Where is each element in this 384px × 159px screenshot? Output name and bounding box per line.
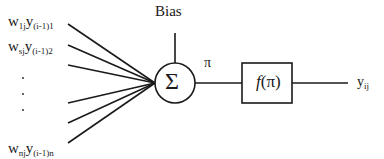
output-label: yij bbox=[357, 74, 369, 91]
weight-symbol: w bbox=[8, 13, 19, 29]
weight-symbol: w bbox=[8, 140, 19, 156]
input-lines bbox=[68, 24, 155, 143]
weight-subscript: nj bbox=[19, 148, 26, 158]
input-line-2 bbox=[68, 45, 155, 83]
ellipsis-dot-1 bbox=[22, 77, 24, 79]
input-line-4 bbox=[68, 83, 155, 103]
input-label-1: w1jy(i-1)1 bbox=[8, 13, 54, 34]
input-line-5 bbox=[68, 83, 155, 123]
summation-symbol: Σ bbox=[165, 68, 179, 95]
signal-subscript: (i-1)2 bbox=[32, 46, 53, 56]
function-argument: (π) bbox=[261, 72, 281, 91]
signal-subscript: (i-1)n bbox=[33, 148, 54, 158]
bias-label: Bias bbox=[155, 3, 182, 20]
net-input-label: π bbox=[204, 55, 211, 71]
output-subscript: ij bbox=[364, 81, 369, 91]
output-symbol: y bbox=[357, 74, 364, 89]
activation-function-label: f(π) bbox=[256, 72, 281, 92]
neuron-diagram bbox=[0, 0, 384, 159]
weight-subscript: 1j bbox=[19, 21, 26, 31]
signal-subscript: (i-1)1 bbox=[33, 21, 54, 31]
input-line-6 bbox=[68, 83, 155, 143]
ellipsis-dot-2 bbox=[22, 93, 24, 95]
weight-symbol: w bbox=[8, 38, 19, 54]
ellipsis-dot-3 bbox=[22, 109, 24, 111]
input-label-2: wsjy(i-1)2 bbox=[8, 38, 53, 59]
input-label-n: wnjy(i-1)n bbox=[8, 140, 54, 159]
